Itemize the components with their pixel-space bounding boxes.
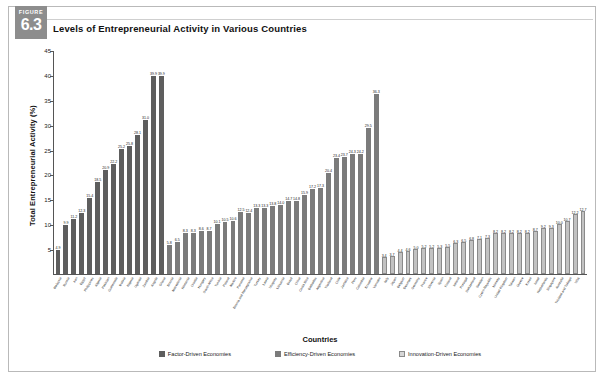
bar-value-label: 5.2 bbox=[421, 245, 426, 249]
y-axis-tick-mark bbox=[50, 151, 53, 152]
bar: 9.3 bbox=[549, 228, 554, 274]
x-axis-line bbox=[53, 274, 587, 275]
figure-badge-word: FIGURE bbox=[15, 6, 47, 15]
x-axis-category-label: Russia bbox=[63, 277, 71, 288]
bar-value-label: 14.7 bbox=[285, 197, 292, 201]
bar: 20.4 bbox=[326, 173, 331, 274]
bar: 6.5 bbox=[175, 242, 180, 274]
bar: 5.8 bbox=[167, 245, 172, 274]
bar-value-label: 23.7 bbox=[341, 152, 348, 156]
bar-value-label: 8.2 bbox=[493, 230, 498, 234]
y-axis-tick-mark bbox=[50, 250, 53, 251]
bar: 3.7 bbox=[390, 256, 395, 274]
bar-value-label: 9.2 bbox=[541, 225, 546, 229]
y-axis-title: Total Entrepreneurial Activity (%) bbox=[28, 86, 37, 246]
bar-value-label: 9.9 bbox=[63, 220, 68, 224]
bar-value-label: 6.8 bbox=[469, 237, 474, 241]
legend-item[interactable]: Efficiency-Driven Economies bbox=[275, 351, 355, 357]
bar: 8.3 bbox=[183, 233, 188, 274]
bar-value-label: 11.2 bbox=[71, 214, 78, 218]
bar-value-label: 13.3 bbox=[253, 204, 260, 208]
y-axis-tick-label: 10 bbox=[37, 222, 51, 228]
y-axis-tick-mark bbox=[50, 51, 53, 52]
bar: 15.9 bbox=[302, 195, 307, 274]
bar-value-label: 6.5 bbox=[175, 237, 180, 241]
x-axis-category-label: Ghana bbox=[159, 277, 167, 287]
figure-title: Levels of Entrepreneurial Activity in Va… bbox=[53, 23, 307, 34]
y-axis-tick-label: 45 bbox=[37, 48, 51, 54]
bar-value-label: 17.2 bbox=[309, 184, 316, 188]
bar: 12.2 bbox=[573, 214, 578, 274]
bar-value-label: 3.4 bbox=[382, 254, 387, 258]
bar-value-label: 12.5 bbox=[237, 208, 244, 212]
bar: 10.1 bbox=[215, 224, 220, 274]
bar: 14.0 bbox=[278, 205, 283, 274]
bar-value-label: 7.3 bbox=[485, 234, 490, 238]
bar-value-label: 10.1 bbox=[214, 219, 221, 223]
bar-value-label: 4.9 bbox=[55, 245, 60, 249]
bar-value-label: 12.4 bbox=[245, 208, 252, 212]
bar-value-label: 8.2 bbox=[501, 230, 506, 234]
bar-value-label: 20.4 bbox=[325, 168, 332, 172]
bar: 14.7 bbox=[286, 201, 291, 274]
x-axis-category-label: Angola bbox=[151, 277, 159, 288]
bar: 10.5 bbox=[223, 222, 228, 274]
bar-value-label: 17.3 bbox=[317, 184, 324, 188]
bar: 13.8 bbox=[270, 206, 275, 274]
x-axis-category-label: Tunisia bbox=[214, 277, 222, 288]
bar: 8.6 bbox=[199, 231, 204, 274]
bar: 5.3 bbox=[437, 248, 442, 274]
x-axis-category-labels: MalaysiaRussiaIranEgyptPhilippinesAlgeri… bbox=[54, 277, 587, 335]
bar: 12.3 bbox=[79, 213, 84, 274]
bar: 8.3 bbox=[191, 233, 196, 274]
bar-value-label: 23.4 bbox=[333, 154, 340, 158]
legend-label: Efficiency-Driven Economies bbox=[284, 351, 355, 357]
bar: 8.2 bbox=[509, 233, 514, 274]
bar: 3.4 bbox=[382, 257, 387, 274]
bar-value-label: 13.3 bbox=[261, 204, 268, 208]
legend-label: Innovation-Driven Economies bbox=[408, 351, 481, 357]
bar: 12.4 bbox=[246, 213, 251, 274]
y-axis-tick-label: 15 bbox=[37, 197, 51, 203]
bar-value-label: 24.2 bbox=[357, 150, 364, 154]
bar-value-label: 39.9 bbox=[150, 72, 157, 76]
title-divider bbox=[47, 19, 593, 20]
y-axis-tick-mark bbox=[50, 225, 53, 226]
bar: 31.0 bbox=[143, 120, 148, 274]
bar: 6.3 bbox=[453, 243, 458, 274]
bar-value-label: 8.3 bbox=[183, 228, 188, 232]
bar: 8.2 bbox=[501, 233, 506, 274]
legend-swatch-icon bbox=[159, 351, 165, 357]
legend-item[interactable]: Factor-Driven Economies bbox=[159, 351, 231, 357]
y-axis-tick-label: 35 bbox=[37, 97, 51, 103]
bar-value-label: 8.7 bbox=[533, 227, 538, 231]
bar: 22.2 bbox=[111, 164, 116, 274]
bar-value-label: 10.5 bbox=[222, 217, 229, 221]
y-axis-tick-mark bbox=[50, 175, 53, 176]
bar-value-label: 10.6 bbox=[229, 217, 236, 221]
bar-value-label: 8.2 bbox=[525, 230, 530, 234]
x-axis-category-label: Greece bbox=[516, 277, 525, 288]
y-axis-tick-mark bbox=[50, 76, 53, 77]
bar: 9.9 bbox=[63, 225, 68, 274]
x-axis-category-label: Italy bbox=[384, 277, 390, 284]
bar: 20.9 bbox=[103, 170, 108, 274]
bar: 17.2 bbox=[310, 189, 315, 274]
bar: 36.3 bbox=[374, 94, 379, 274]
chart-legend: Factor-Driven EconomiesEfficiency-Driven… bbox=[53, 351, 587, 357]
bar-value-label: 7.1 bbox=[477, 235, 482, 239]
bar-value-label: 5.3 bbox=[437, 244, 442, 248]
legend-item[interactable]: Innovation-Driven Economies bbox=[399, 351, 481, 357]
bar-value-label: 18.5 bbox=[94, 178, 101, 182]
bar: 5.0 bbox=[413, 249, 418, 274]
y-axis-tick-label: 30 bbox=[37, 122, 51, 128]
bar: 4.9 bbox=[56, 250, 61, 274]
bar: 5.2 bbox=[421, 248, 426, 274]
x-axis-category-label: Turkey bbox=[254, 277, 262, 287]
bar-value-label: 4.6 bbox=[405, 248, 410, 252]
bar: 10.6 bbox=[231, 221, 236, 274]
bar-value-label: 14.0 bbox=[277, 200, 284, 204]
bar: 11.2 bbox=[71, 219, 76, 275]
bar-value-label: 13.8 bbox=[269, 201, 276, 205]
bar-series-container: 4.99.911.212.315.418.520.922.225.225.828… bbox=[54, 51, 587, 274]
